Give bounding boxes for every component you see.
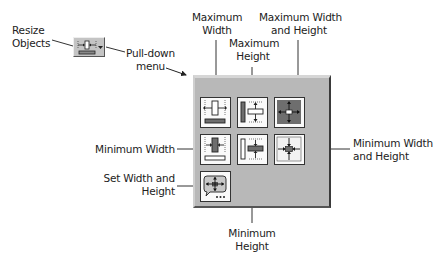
- label-line: Maximum: [229, 37, 277, 50]
- label-line: and Height: [259, 24, 339, 37]
- chevron-down-icon: [98, 46, 103, 49]
- label-maximum-width: Maximum Width: [192, 11, 242, 37]
- label-line: Pull-down: [126, 47, 175, 60]
- minimum-width-and-height-item[interactable]: [274, 134, 305, 165]
- resize-objects-icon: [74, 38, 106, 58]
- label-line: Width: [192, 24, 242, 37]
- label-line: Set Width and: [95, 172, 175, 185]
- minimum-width-item[interactable]: [200, 134, 231, 165]
- min-width-height-icon: [275, 135, 303, 163]
- minimum-height-item[interactable]: [237, 134, 268, 165]
- label-pull-down-menu: Pull-down menu: [126, 47, 175, 73]
- maximum-width-item[interactable]: [200, 97, 231, 128]
- label-set-width-and-height: Set Width and Height: [95, 172, 175, 198]
- label-maximum-height: Maximum Height: [229, 37, 277, 63]
- resize-objects-button[interactable]: [73, 37, 105, 57]
- max-width-icon: [201, 98, 229, 126]
- set-width-height-icon: [201, 172, 229, 200]
- label-line: Height: [228, 240, 276, 253]
- label-line: Objects: [12, 37, 50, 50]
- label-minimum-width: Minimum Width: [90, 143, 175, 156]
- maximum-width-and-height-item[interactable]: [274, 97, 305, 128]
- label-line: Height: [229, 50, 277, 63]
- label-line: Height: [95, 185, 175, 198]
- label-line: Maximum Width: [259, 11, 339, 24]
- maximum-height-item[interactable]: [237, 97, 268, 128]
- label-line: Minimum Width: [90, 143, 175, 156]
- set-width-and-height-item[interactable]: [200, 171, 231, 202]
- min-width-icon: [201, 135, 229, 163]
- max-height-icon: [238, 98, 266, 126]
- label-line: menu: [126, 60, 175, 73]
- label-line: Maximum: [192, 11, 242, 24]
- min-height-icon: [238, 135, 266, 163]
- label-line: and Height: [353, 150, 433, 163]
- label-maximum-width-and-height: Maximum Width and Height: [259, 11, 339, 37]
- label-line: Resize: [12, 24, 50, 37]
- label-line: Minimum: [228, 227, 276, 240]
- label-minimum-height: Minimum Height: [228, 227, 276, 253]
- max-width-height-icon: [275, 98, 303, 126]
- label-resize-objects: Resize Objects: [12, 24, 50, 50]
- label-line: Minimum Width: [353, 137, 433, 150]
- label-minimum-width-and-height: Minimum Width and Height: [353, 137, 433, 163]
